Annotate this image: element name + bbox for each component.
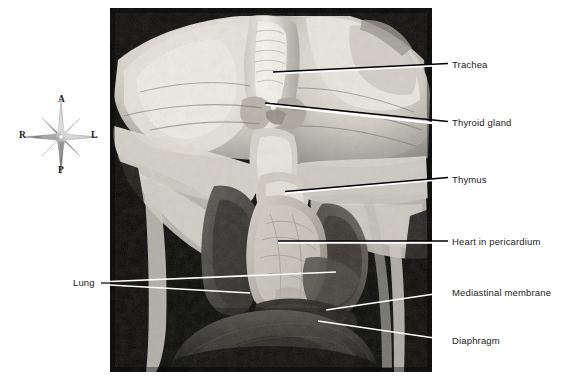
compass-label-right: R [19,131,26,141]
compass-label-posterior: P [58,166,64,176]
label-diaphragm: Diaphragm [452,336,500,346]
label-lung: Lung [73,278,95,288]
label-trachea: Trachea [452,60,488,70]
label-heart-in-pericardium: Heart in pericardium [452,237,541,247]
label-thyroid-gland: Thyroid gland [452,118,512,128]
orientation-compass: A P R L [18,94,104,180]
compass-label-anterior: A [58,95,65,105]
figure-root: A P R L [0,0,570,387]
anatomical-photograph [110,8,432,372]
label-thymus: Thymus [452,175,487,185]
label-mediastinal-membrane: Mediastinal membrane [452,288,551,298]
dissection-photo-image [110,8,432,372]
compass-label-left: L [91,131,97,141]
